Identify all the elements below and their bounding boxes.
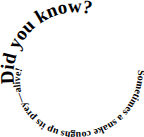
body-text: Sometimes a snake coughs up its prey—ali… xyxy=(11,66,144,137)
body-textpath: Sometimes a snake coughs up its prey—ali… xyxy=(11,66,144,137)
spiral-text-graphic: Did you know? Sometimes a snake coughs u… xyxy=(0,0,144,137)
spiral-svg: Did you know? Sometimes a snake coughs u… xyxy=(0,0,144,137)
